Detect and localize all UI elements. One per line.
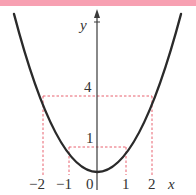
x-tick-0: 0	[86, 176, 94, 192]
y-tick-4: 4	[84, 79, 92, 95]
y-axis-label: y	[78, 17, 87, 33]
y-tick-1: 1	[86, 130, 94, 146]
x-tick-1: 1	[122, 176, 130, 192]
parabola-chart: y 4 1 −2 −1 0 1 2 x	[0, 0, 196, 195]
y-axis-arrow-icon	[94, 9, 100, 18]
x-tick-neg1: −1	[56, 176, 72, 192]
x-tick-2: 2	[148, 176, 156, 192]
x-axis-label: x	[167, 176, 175, 192]
y-axis	[94, 9, 100, 190]
x-tick-neg2: −2	[29, 176, 45, 192]
